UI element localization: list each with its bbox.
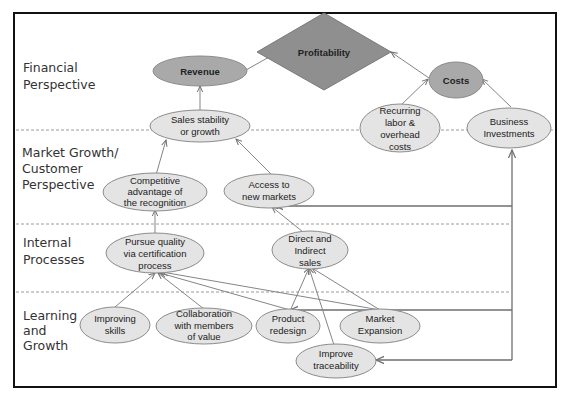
svg-text:costs: costs [389,141,411,152]
node-pursue-quality: Pursue quality via certification process [106,233,204,273]
svg-text:sales: sales [299,257,321,268]
node-business-investments: Business Investments [467,108,551,148]
svg-text:Collaboration: Collaboration [176,308,232,319]
svg-text:of value: of value [187,331,220,342]
svg-text:or growth: or growth [180,126,220,137]
perspective-learning: Learning and Growth [23,308,81,353]
strategy-map: Financial Perspective Market Growth/ Cus… [0,0,572,394]
perspective-financial: Financial Perspective [23,60,96,92]
svg-text:Expansion: Expansion [358,325,402,336]
node-collaboration: Collaboration with members of value [156,308,252,344]
svg-text:Investments: Investments [483,128,534,139]
svg-text:Product: Product [272,313,305,324]
edge-costs-profitability [391,52,429,78]
svg-text:skills: skills [105,325,126,336]
svg-text:with members: with members [173,320,233,331]
edge-redesign-pursue [160,273,290,310]
edge-redesign-direct [290,268,309,311]
svg-text:Pursue quality: Pursue quality [125,236,185,247]
svg-text:Costs: Costs [443,75,469,86]
node-product-redesign: Product redesign [256,309,320,343]
svg-text:process: process [138,260,172,271]
svg-text:the recognition: the recognition [124,197,186,208]
node-competitive-advantage: Competitive advantage of the recognition [103,173,207,211]
svg-text:Business: Business [490,116,529,127]
svg-text:Sales stability: Sales stability [171,114,229,125]
svg-text:Improving: Improving [94,313,136,324]
edge-investments-costs [482,79,511,107]
svg-text:overhead: overhead [380,129,420,140]
svg-text:Recurring: Recurring [379,105,420,116]
node-market-expansion: Market Expansion [340,309,420,343]
svg-text:redesign: redesign [270,325,306,336]
node-profitability: Profitability [257,13,391,90]
node-recurring-costs: Recurring labor & overhead costs [360,104,440,152]
svg-text:Competitive: Competitive [130,175,180,186]
node-improve-traceability: Improve traceability [296,344,376,378]
svg-text:new markets: new markets [242,191,296,202]
svg-text:Improve: Improve [319,348,353,359]
svg-text:Indirect: Indirect [294,245,326,256]
svg-text:Access to: Access to [248,179,289,190]
svg-text:advantage of: advantage of [128,186,183,197]
node-improving-skills: Improving skills [80,307,150,343]
svg-text:via certification: via certification [124,248,187,259]
edge-recurring-costs [400,79,428,106]
node-sales-stability: Sales stability or growth [150,110,250,142]
svg-text:Market: Market [365,313,394,324]
svg-text:Direct and: Direct and [288,233,331,244]
edge-skills-pursue [115,273,155,307]
node-direct-sales: Direct and Indirect sales [272,231,348,269]
svg-text:Revenue: Revenue [180,66,220,77]
edge-competitive-sales [156,140,166,175]
node-revenue: Revenue [153,56,247,86]
svg-text:traceability: traceability [313,360,359,371]
edge-access-sales [236,139,272,175]
svg-text:labor &: labor & [385,117,416,128]
node-costs: Costs [429,62,483,98]
perspective-internal: Internal Processes [23,235,85,267]
node-access-markets: Access to new markets [224,174,314,208]
svg-text:Profitability: Profitability [298,47,351,58]
